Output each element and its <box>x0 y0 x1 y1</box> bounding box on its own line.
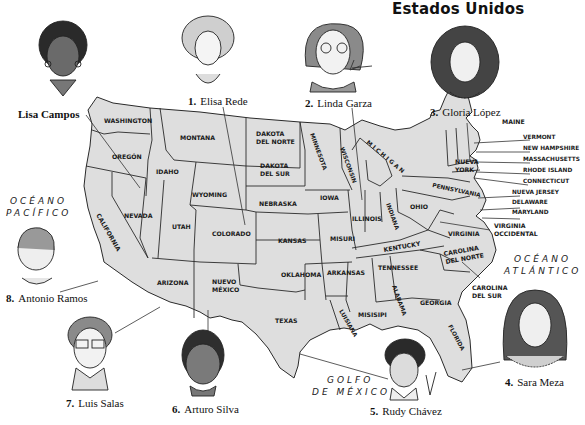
portrait-elisa-rede <box>182 16 234 83</box>
person-label-2: 2.Linda Garza <box>305 97 372 109</box>
label-nebraska: NEBRASKA <box>259 200 297 207</box>
label-wyoming: WYOMING <box>192 191 227 198</box>
label-connecticut: CONNECTICUT <box>523 178 569 184</box>
label-nuevo-mexico-1: NUEVO <box>212 278 236 285</box>
label-new-hampshire: NEW HAMPSHIRE <box>523 145 579 151</box>
label-dakota-sur-2: DEL SUR <box>260 170 290 177</box>
label-illinois: ILLINOIS <box>352 215 382 222</box>
label-texas: TEXAS <box>275 317 297 324</box>
person-number: 5. <box>370 405 378 417</box>
portrait-sara-meza <box>503 290 567 367</box>
person-number: 1. <box>188 95 196 107</box>
person-number: 8. <box>6 292 14 304</box>
label-misuri: MISURI <box>330 235 355 242</box>
person-name: Arturo Silva <box>184 403 239 415</box>
label-georgia: GEORGIA <box>420 299 452 306</box>
label-rhode-island: RHODE ISLAND <box>523 167 572 173</box>
label-ohio: OHIO <box>410 203 428 210</box>
portrait-lisa-campos <box>39 21 87 96</box>
label-pacific-1: OCÉANO <box>10 195 67 206</box>
person-name: Rudy Chávez <box>382 405 442 417</box>
label-atlantic-1: OCÉANO <box>514 253 571 264</box>
label-nueva-jersey: NUEVA JERSEY <box>512 189 560 196</box>
label-pacific-2: PACÍFICO <box>6 207 71 218</box>
person-name: Linda Garza <box>317 97 372 109</box>
portrait-luis-salas <box>68 317 112 390</box>
portrait-linda-garza <box>305 24 363 92</box>
label-atlantic-2: ATLÁNTICO <box>503 265 581 276</box>
person-label-1: 1.Elisa Rede <box>188 95 248 107</box>
label-nueva-york-2: YORK <box>454 166 474 173</box>
label-gulf-1: GOLFO <box>327 375 373 385</box>
person-number: 2. <box>305 97 313 109</box>
us-map: WASHINGTON OREGÓN CALIFORNIA IDAHO NEVAD… <box>0 0 585 425</box>
person-name: Elisa Rede <box>200 95 247 107</box>
label-colorado: COLORADO <box>212 230 251 237</box>
label-arizona: ARIZONA <box>157 279 189 286</box>
label-carolina-sur-2: DEL SUR <box>472 292 502 299</box>
person-name: Gloria López <box>442 106 500 118</box>
label-dakota-norte-2: DEL NORTE <box>256 138 295 145</box>
person-label-7: 7.Luis Salas <box>66 397 124 409</box>
label-oregon: OREGÓN <box>112 153 142 160</box>
label-washington: WASHINGTON <box>104 117 152 124</box>
person-label-0: Lisa Campos <box>18 108 79 120</box>
label-maryland: MARYLAND <box>512 209 549 215</box>
person-name: Sara Meza <box>517 376 564 388</box>
label-idaho: IDAHO <box>156 168 179 175</box>
person-label-4: 4.Sara Meza <box>505 376 564 388</box>
label-dakota-sur-1: DAKOTA <box>260 162 288 169</box>
label-iowa: IOWA <box>320 194 339 201</box>
label-montana: MONTANA <box>180 134 215 141</box>
label-arkansas: ARKANSAS <box>327 269 365 276</box>
label-tennessee: TENNESSEE <box>378 264 418 271</box>
label-virginia-occidental-2: OCCIDENTAL <box>494 230 538 237</box>
person-number: 4. <box>505 376 513 388</box>
label-maine: MAINE <box>502 118 525 125</box>
label-nuevo-mexico-2: MÉXICO <box>212 286 239 293</box>
label-nevada: NEVADA <box>124 212 153 219</box>
label-carolina-sur-1: CAROLINA <box>472 284 508 291</box>
label-gulf-2: DE MÉXICO <box>312 386 390 397</box>
label-oklahoma: OKLAHOMA <box>281 271 321 278</box>
label-dakota-norte-1: DAKOTA <box>256 130 284 137</box>
label-kansas: KANSAS <box>278 237 306 244</box>
label-virginia-occidental-1: VIRGINIA <box>494 222 526 229</box>
portrait-arturo-silva <box>182 330 224 396</box>
label-misisipi: MISISIPI <box>358 311 387 318</box>
portrait-rudy-chavez <box>385 339 436 400</box>
person-label-6: 6.Arturo Silva <box>172 403 239 415</box>
person-number: 3. <box>430 106 438 118</box>
person-name: Luis Salas <box>78 397 124 409</box>
portrait-antonio-ramos <box>18 228 54 284</box>
label-massachusetts: MASSACHUSETTS <box>523 156 580 162</box>
label-vermont: VERMONT <box>523 134 555 140</box>
person-number: 6. <box>172 403 180 415</box>
person-number: 7. <box>66 397 74 409</box>
label-delaware: DELAWARE <box>512 199 548 205</box>
portrait-gloria-lopez <box>431 26 499 98</box>
label-virginia: VIRGINIA <box>448 230 480 237</box>
person-label-3: 3.Gloria López <box>430 106 501 118</box>
person-label-8: 8.Antonio Ramos <box>6 292 88 304</box>
person-name: Antonio Ramos <box>18 292 87 304</box>
label-nueva-york-1: NUEVA <box>455 158 479 165</box>
us-landmass <box>84 86 496 382</box>
label-utah: UTAH <box>172 223 191 230</box>
person-name: Lisa Campos <box>18 108 79 120</box>
person-label-5: 5.Rudy Chávez <box>370 405 442 417</box>
